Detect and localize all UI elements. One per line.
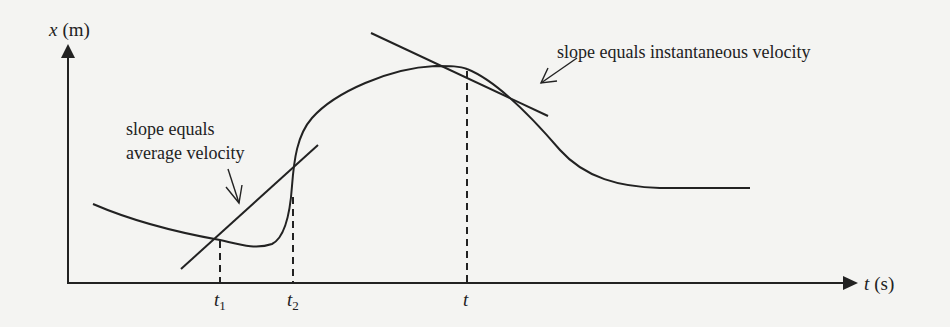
tick-label-t2: t2 xyxy=(287,289,299,313)
tangent-line xyxy=(371,33,548,116)
secant-line xyxy=(181,145,318,269)
instantaneous-velocity-annotation: slope equals instantaneous velocity xyxy=(557,42,810,62)
y-axis-label: x(m) xyxy=(48,19,90,41)
tick-label-t1: t1 xyxy=(214,289,226,313)
position-time-diagram: x(m) t(s) t1 t2 t slope equals average v… xyxy=(0,0,950,327)
x-axis-arrowhead-icon xyxy=(843,276,858,290)
average-velocity-arrow-icon xyxy=(226,169,242,203)
average-velocity-annotation-line2: average velocity xyxy=(126,143,244,163)
y-axis xyxy=(61,44,75,284)
y-axis-arrowhead-icon xyxy=(61,44,75,58)
x-axis xyxy=(67,276,858,290)
x-axis-label: t(s) xyxy=(864,273,894,295)
average-velocity-annotation-line1: slope equals xyxy=(126,119,214,139)
tick-label-t: t xyxy=(463,289,469,310)
